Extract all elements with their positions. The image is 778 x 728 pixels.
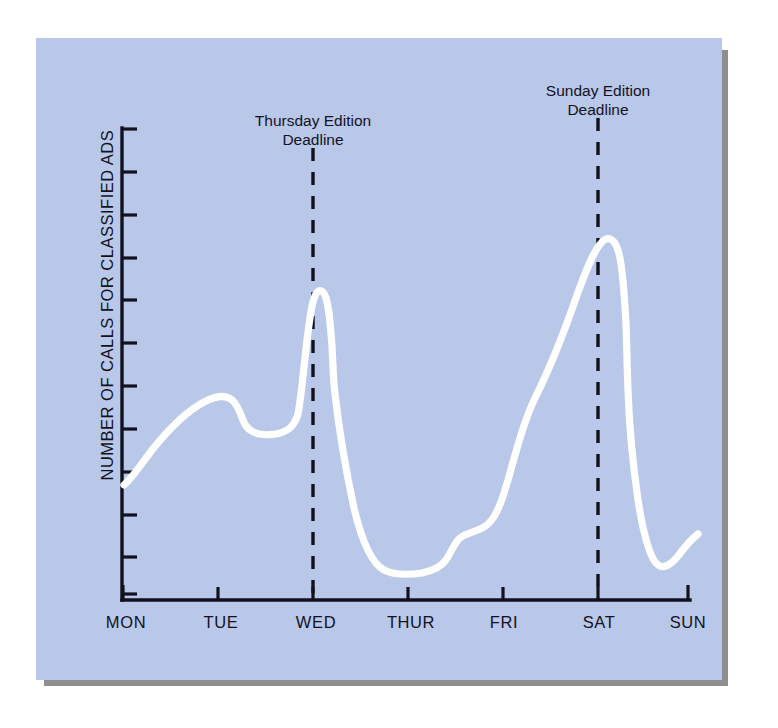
thursday-deadline-annotation: Thursday Edition Deadline — [255, 111, 371, 150]
x-tick-label-mon: MON — [106, 613, 146, 632]
thursday-deadline-label-line1: Thursday Edition — [255, 112, 371, 129]
y-axis-title: NUMBER OF CALLS FOR CLASSIFIED ADS — [98, 151, 117, 481]
x-tick-label-tue: TUE — [204, 613, 239, 632]
x-tick-label-sat: SAT — [583, 613, 616, 632]
figure-root: NUMBER OF CALLS FOR CLASSIFIED ADS MON T… — [0, 0, 778, 728]
chart-panel: NUMBER OF CALLS FOR CLASSIFIED ADS MON T… — [36, 38, 722, 680]
thursday-deadline-label-line2: Deadline — [255, 130, 371, 149]
calls-curve — [124, 239, 698, 575]
x-tick-label-wed: WED — [296, 613, 336, 632]
x-tick-label-fri: FRI — [490, 613, 518, 632]
sunday-deadline-annotation: Sunday Edition Deadline — [546, 81, 650, 120]
sunday-deadline-label-line2: Deadline — [546, 100, 650, 119]
chart-plot-area — [36, 38, 722, 680]
x-tick-label-thur: THUR — [387, 613, 435, 632]
sunday-deadline-label-line1: Sunday Edition — [546, 82, 650, 99]
x-tick-label-sun: SUN — [670, 613, 707, 632]
